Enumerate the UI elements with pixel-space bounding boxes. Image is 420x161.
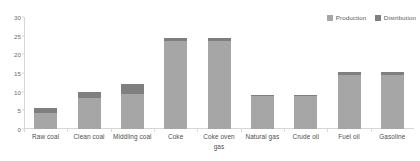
x-axis-label: Crude oil: [284, 132, 327, 142]
x-axis-label: Clean coal: [67, 132, 110, 142]
bar-group[interactable]: [208, 38, 231, 129]
x-axis-label: Natural gas: [241, 132, 284, 142]
bar-group[interactable]: [164, 38, 187, 129]
x-axis-labels: Raw coalClean coalMiddling coalCokeCoke …: [24, 132, 414, 160]
bar-group[interactable]: [78, 92, 101, 129]
bar-segment-production[interactable]: [208, 41, 231, 129]
y-tick-label: 0: [18, 126, 21, 133]
bar-segment-production[interactable]: [338, 75, 361, 129]
bar-segment-production[interactable]: [164, 41, 187, 129]
x-axis-label: Coke oven gas: [197, 132, 240, 151]
bar-segment-production[interactable]: [121, 94, 144, 129]
y-tick-label: 25: [14, 32, 21, 39]
bar-segment-production[interactable]: [251, 96, 274, 129]
bar-group[interactable]: [251, 95, 274, 129]
plot-area: 051015202530: [24, 17, 414, 129]
y-tick-label: 30: [14, 14, 21, 21]
y-tick-label: 15: [14, 70, 21, 77]
stacked-bar-chart: Production Distribution 051015202530 Raw…: [0, 0, 420, 161]
y-tick-label: 20: [14, 51, 21, 58]
bar-segment-production[interactable]: [34, 113, 57, 129]
bar-group[interactable]: [381, 72, 404, 129]
x-axis-label: Coke: [154, 132, 197, 142]
y-tick-label: 5: [18, 107, 21, 114]
bar-segment-production[interactable]: [381, 75, 404, 130]
x-axis-label: Gasoline: [371, 132, 414, 142]
bar-segment-distribution[interactable]: [121, 84, 144, 94]
bar-group[interactable]: [121, 84, 144, 129]
bar-segment-production[interactable]: [78, 98, 101, 129]
bar-group[interactable]: [34, 108, 57, 129]
x-axis-label: Fuel oil: [327, 132, 370, 142]
x-axis-label: Middling coal: [111, 132, 154, 142]
y-tick-label: 10: [14, 88, 21, 95]
bar-segment-production[interactable]: [294, 96, 317, 129]
bar-series-container: [24, 17, 414, 129]
bar-group[interactable]: [294, 95, 317, 129]
bar-group[interactable]: [338, 72, 361, 129]
x-axis-label: Raw coal: [24, 132, 67, 142]
